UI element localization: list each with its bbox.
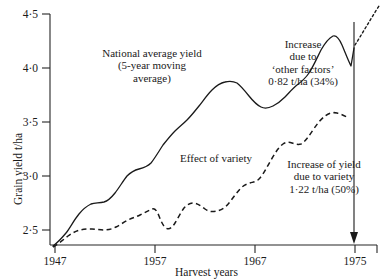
annotation-other-factors-line2: due to <box>252 50 354 62</box>
y-tick-label-3-5: 3·5 <box>10 116 38 129</box>
annotation-other-factors-line3: ‘other factors’ <box>252 63 354 75</box>
annotation-variety-increase-line1: Increase of yield <box>266 158 382 170</box>
annotation-national-average-line3: average) <box>88 72 216 84</box>
chart-figure: 4·5 4·0 3·5 3·0 2·5 1947 1957 1967 1975 … <box>0 0 386 280</box>
annotation-other-factors: Increase due to ‘other factors’ 0·82 t/h… <box>252 38 354 87</box>
y-tick-label-2-5: 2·5 <box>10 224 38 237</box>
annotation-variety-increase-line3: 1·22 t/ha (50%) <box>266 183 382 195</box>
y-axis-ticks <box>42 14 50 230</box>
annotation-effect-of-variety: Effect of variety <box>166 152 266 164</box>
y-tick-label-4-5: 4·5 <box>10 8 38 21</box>
x-axis-ticks <box>55 245 377 253</box>
annotation-national-average-line1: National average yield <box>88 47 216 59</box>
annotation-other-factors-line4: 0·82 t/ha (34%) <box>252 75 354 87</box>
annotation-national-average-line2: (5-year moving <box>88 59 216 71</box>
x-tick-label-1975: 1975 <box>331 255 379 268</box>
x-tick-label-1947: 1947 <box>31 255 79 268</box>
annotation-variety-increase-line2: due to variety <box>266 170 382 182</box>
x-tick-label-1957: 1957 <box>131 255 179 268</box>
annotation-national-average: National average yield (5-year moving av… <box>88 47 216 84</box>
x-tick-label-1967: 1967 <box>231 255 279 268</box>
gap-arrow-head <box>350 232 358 244</box>
x-axis-title: Harvest years <box>175 266 238 279</box>
annotation-effect-of-variety-line1: Effect of variety <box>166 152 266 164</box>
series-national-average-projection <box>355 6 379 45</box>
annotation-variety-increase: Increase of yield due to variety 1·22 t/… <box>266 158 382 195</box>
annotation-other-factors-line1: Increase <box>252 38 354 50</box>
y-axis-title: Grain yield t/ha <box>12 133 25 205</box>
y-tick-label-4-0: 4·0 <box>10 62 38 75</box>
